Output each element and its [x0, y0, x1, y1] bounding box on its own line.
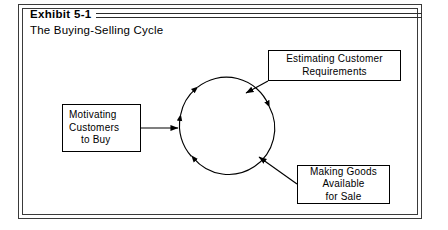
- node-box-estimating-customer-requirements: Estimating Customer Requirements: [268, 50, 401, 81]
- node-box-motivating-customers-to-buy: Motivating Customers to Buy: [62, 104, 141, 152]
- node-label-line: Requirements: [269, 66, 400, 79]
- node-box-making-goods-available-for-sale: Making Goods Available for Sale: [297, 165, 390, 204]
- node-label-line: Motivating: [69, 109, 140, 122]
- node-label-line: Customers: [69, 122, 140, 135]
- exhibit-figure: Exhibit 5-1 The Buying-Selling Cycle: [0, 0, 448, 230]
- node-label-line: for Sale: [298, 191, 389, 204]
- connector-making-to-cycle: [259, 157, 297, 184]
- node-label-line: to Buy: [69, 134, 140, 147]
- node-label-line: Making Goods: [298, 166, 389, 179]
- node-label-line: Available: [298, 178, 389, 191]
- cycle-circle: [179, 77, 274, 174]
- node-label-line: Estimating Customer: [269, 53, 400, 66]
